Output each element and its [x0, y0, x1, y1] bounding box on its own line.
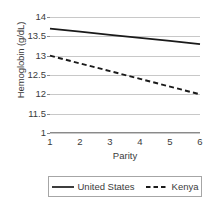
legend-label: Kenya: [172, 181, 199, 192]
legend-label: United States: [78, 181, 135, 192]
legend-swatch-solid-line-icon: [52, 183, 74, 191]
x-axis-tick-label: 6: [190, 136, 210, 147]
x-axis-tick-label: 1: [40, 136, 60, 147]
plot-area: [50, 17, 200, 133]
legend-swatch-dashed-line-icon: [146, 183, 168, 191]
x-axis-title: Parity: [50, 150, 200, 161]
legend: United StatesKenya: [48, 176, 202, 197]
y-axis-tick-label: 12.5: [2, 70, 46, 80]
y-axis-tick-label: 12: [2, 89, 46, 99]
gridline: [50, 133, 200, 134]
legend-entry[interactable]: United States: [52, 181, 135, 192]
y-axis-tick-label: 13: [2, 51, 46, 61]
y-axis-tick-label: 13.5: [2, 31, 46, 41]
y-axis-tick-labels: 1413.51312.51211.51: [0, 0, 46, 204]
x-axis-tick-label: 5: [160, 136, 180, 147]
series-container: [50, 17, 200, 133]
series-line-united-states: [50, 29, 200, 44]
x-axis-tick-label: 4: [130, 136, 150, 147]
x-axis-tick-label: 3: [100, 136, 120, 147]
hemoglobin-parity-line-chart: Hemoglobin (g/dL) 1413.51312.51211.51 12…: [0, 0, 224, 204]
x-axis-tick-label: 2: [70, 136, 90, 147]
y-axis-tick-label: 14: [2, 12, 46, 22]
series-line-kenya: [50, 56, 200, 95]
legend-entry[interactable]: Kenya: [146, 181, 199, 192]
y-axis-tick-label: 11.5: [2, 109, 46, 119]
